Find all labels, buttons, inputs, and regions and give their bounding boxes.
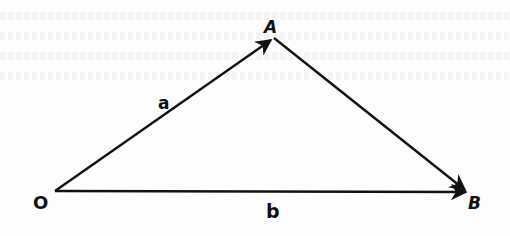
vector-b-line (55, 191, 466, 192)
diagram-canvas: O A B a b (0, 0, 510, 236)
vector-label-a: a (158, 93, 169, 113)
point-label-b: B (468, 193, 481, 213)
vector-label-b: b (266, 200, 280, 222)
vector-a-line (55, 40, 271, 191)
point-label-a: A (262, 17, 277, 37)
point-label-o: O (33, 192, 48, 213)
vector-triangle-diagram: O A B a b (0, 0, 510, 236)
vector-ab-line (274, 38, 465, 190)
